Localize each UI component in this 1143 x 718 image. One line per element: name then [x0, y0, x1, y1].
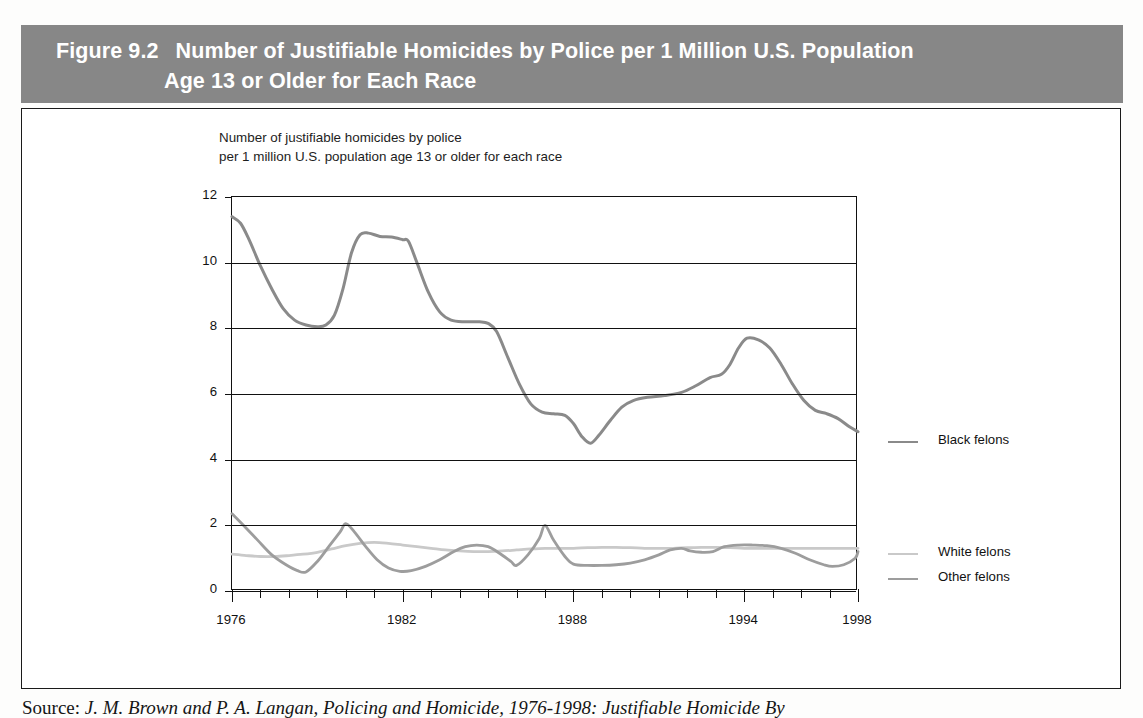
- y-tick-label: 8: [183, 318, 217, 333]
- x-tick: [431, 589, 432, 598]
- x-tick: [630, 589, 631, 598]
- x-tick: [773, 589, 774, 598]
- x-tick: [602, 589, 603, 598]
- plot-area: [231, 196, 857, 590]
- y-tick: [225, 394, 232, 395]
- x-tick: [374, 589, 375, 598]
- x-tick: [403, 589, 404, 602]
- legend-label-white-felons: White felons: [938, 544, 1011, 559]
- y-tick: [225, 591, 232, 592]
- legend-swatch: [888, 553, 918, 555]
- y-tick: [225, 263, 232, 264]
- y-tick-label: 6: [183, 384, 217, 399]
- y-gridline: [232, 328, 856, 329]
- source-caption: Source: J. M. Brown and P. A. Langan, Po…: [22, 697, 1142, 718]
- figure-title-line1: Number of Justifiable Homicides by Polic…: [176, 39, 914, 63]
- x-tick: [659, 589, 660, 598]
- y-tick: [225, 328, 232, 329]
- figure-header-bar: Figure 9.2Number of Justifiable Homicide…: [21, 25, 1123, 103]
- x-tick: [289, 589, 290, 598]
- y-tick-label: 10: [183, 253, 217, 268]
- x-tick: [744, 589, 745, 602]
- x-tick: [687, 589, 688, 598]
- x-tick: [517, 589, 518, 598]
- source-label: Source:: [22, 697, 80, 718]
- x-tick-label: 1994: [729, 612, 758, 627]
- figure-page: Figure 9.2Number of Justifiable Homicide…: [0, 0, 1143, 718]
- x-tick: [716, 589, 717, 598]
- x-tick: [232, 589, 233, 602]
- series-line-black-felons: [232, 217, 858, 444]
- legend-label-black-felons: Black felons: [938, 432, 1009, 447]
- y-tick-label: 12: [183, 187, 217, 202]
- figure-title-line2: Age 13 or Older for Each Race: [164, 66, 1113, 96]
- y-tick: [225, 460, 232, 461]
- y-tick-label: 2: [183, 515, 217, 530]
- x-tick-label: 1988: [558, 612, 587, 627]
- x-tick: [346, 589, 347, 598]
- x-tick: [260, 589, 261, 598]
- x-tick-label: 1982: [387, 612, 416, 627]
- y-gridline: [232, 263, 856, 264]
- legend-label-other-felons: Other felons: [938, 569, 1010, 584]
- y-tick-label: 0: [183, 581, 217, 596]
- y-gridline: [232, 525, 856, 526]
- y-gridline: [232, 394, 856, 395]
- y-gridline: [232, 591, 856, 592]
- x-tick: [801, 589, 802, 598]
- figure-number: Figure 9.2: [56, 39, 159, 63]
- series-line-other-felons: [232, 514, 858, 573]
- y-gridline: [232, 460, 856, 461]
- legend-swatch: [888, 441, 918, 443]
- axis-caption: Number of justifiable homicides by polic…: [219, 128, 562, 166]
- y-tick: [225, 525, 232, 526]
- y-tick-label: 4: [183, 450, 217, 465]
- x-tick: [317, 589, 318, 598]
- legend-swatch: [888, 578, 918, 580]
- x-tick: [858, 589, 859, 602]
- source-text: J. M. Brown and P. A. Langan, Policing a…: [85, 697, 785, 718]
- x-tick: [460, 589, 461, 598]
- x-tick: [545, 589, 546, 598]
- x-tick: [488, 589, 489, 598]
- x-tick: [830, 589, 831, 598]
- y-tick: [225, 197, 232, 198]
- figure-title-block: Figure 9.2Number of Justifiable Homicide…: [56, 36, 1113, 96]
- x-tick: [573, 589, 574, 602]
- x-tick-label: 1976: [216, 612, 245, 627]
- x-tick-label: 1998: [842, 612, 871, 627]
